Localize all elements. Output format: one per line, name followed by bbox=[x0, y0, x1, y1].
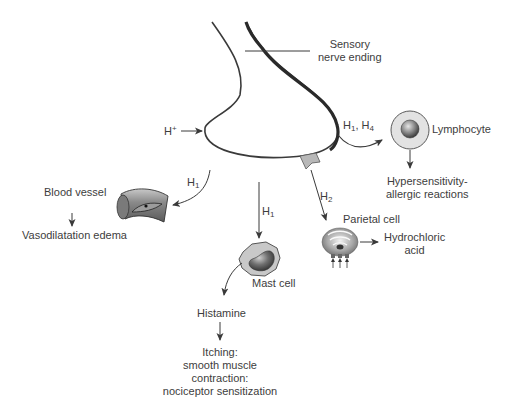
nerve-label-line1: Sensory bbox=[318, 38, 382, 51]
parietal-cell-icon bbox=[322, 228, 358, 268]
parietal-cell-label: Parietal cell bbox=[343, 213, 400, 226]
blood-vessel-icon bbox=[117, 189, 168, 222]
blood-vessel-label: Blood vessel bbox=[44, 186, 106, 199]
hcl-line2: acid bbox=[384, 244, 445, 257]
histamine-label: Histamine bbox=[197, 307, 246, 320]
lymphocyte-effect-line2: allergic reactions bbox=[386, 188, 469, 201]
hcl-label: Hydrochloric acid bbox=[384, 231, 445, 257]
h2-label: H2 bbox=[320, 190, 332, 203]
mast-effect-line2: smooth muscle bbox=[150, 359, 290, 372]
ion-symbol: H bbox=[164, 125, 172, 137]
h-plus-label: H+ bbox=[164, 125, 177, 138]
lymphocyte-label: Lymphocyte bbox=[432, 123, 491, 136]
lymphocyte-icon bbox=[391, 111, 429, 149]
lymphocyte-effect-label: Hypersensitivity- allergic reactions bbox=[386, 175, 469, 201]
mast-cell-label: Mast cell bbox=[252, 277, 295, 290]
mast-effect-line4: nociceptor sensitization bbox=[150, 385, 290, 398]
hcl-line1: Hydrochloric bbox=[384, 231, 445, 244]
h1-h4-label: H1, H4 bbox=[343, 119, 374, 132]
h1-h4-arrow bbox=[338, 135, 382, 147]
h2-receptor-icon bbox=[300, 153, 320, 169]
mast-release-arrow bbox=[224, 263, 242, 295]
mast-cell-icon bbox=[239, 242, 280, 276]
ion-charge: + bbox=[172, 124, 177, 133]
nerve-label-line2: nerve ending bbox=[318, 51, 382, 64]
mast-effect-label: Itching: smooth muscle contraction: noci… bbox=[150, 346, 290, 398]
vessel-effect-label: Vasodilatation edema bbox=[22, 229, 127, 242]
lymphocyte-effect-line1: Hypersensitivity- bbox=[386, 175, 469, 188]
h1-mast-label: H1 bbox=[262, 205, 274, 218]
nerve-label: Sensory nerve ending bbox=[318, 38, 382, 64]
mast-effect-line1: Itching: bbox=[150, 346, 290, 359]
h1-vessel-label: H1 bbox=[187, 176, 199, 189]
mast-effect-line3: contraction: bbox=[150, 372, 290, 385]
